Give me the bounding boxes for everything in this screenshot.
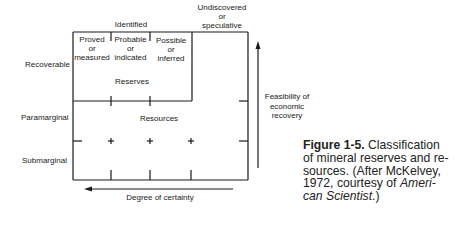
subcolumn-probable-line-3: indicated [111, 53, 150, 62]
undiscovered-line-2: or [192, 12, 252, 21]
undiscovered-line-3: speculative [192, 21, 252, 30]
subcolumn-possible-line-3: inferred [151, 54, 191, 63]
caption-line-5: can Scientist.) [303, 190, 462, 203]
vertical-axis-line-2: economic [257, 102, 317, 111]
vertical-axis-line-1: Feasibility of [257, 92, 317, 101]
caption-line-1: Figure 1-5. Classification [303, 139, 462, 152]
subcolumn-probable-line-1: Probable [111, 35, 150, 44]
figure-number: Figure 1-5. [303, 138, 365, 152]
caption-line-1-text: Classification [368, 138, 440, 152]
row-label-paramarginal: Paramarginal [21, 113, 69, 122]
subcolumn-proved-line-1: Proved [73, 35, 111, 44]
caption-line-5-italic: can Scientist [303, 189, 372, 203]
caption-line-2: of mineral reserves and re- [303, 152, 462, 165]
row-label-recoverable: Recoverable [25, 60, 70, 69]
subcolumn-proved-line-2: or [73, 44, 111, 53]
caption-line-5-text: .) [372, 189, 379, 203]
arrow-left-head [84, 187, 92, 192]
resources-label: Resources [129, 114, 189, 123]
arrow-up-head [256, 41, 261, 49]
vertical-axis-line-3: recovery [257, 111, 317, 120]
row-label-submarginal: Submarginal [22, 156, 67, 165]
subcolumn-proved-line-3: measured [73, 53, 111, 62]
horizontal-axis-label: Degree of certainty [110, 193, 210, 202]
subcolumn-possible-line-2: or [151, 45, 191, 54]
reserves-label: Reserves [102, 77, 162, 86]
identified-header: Identified [101, 20, 161, 29]
subcolumn-probable-line-2: or [111, 44, 150, 53]
figure-caption: Figure 1-5. Classification of mineral re… [303, 139, 462, 203]
undiscovered-line-1: Undiscovered [192, 3, 252, 12]
caption-line-4-italic: Ameri- [400, 176, 436, 190]
subcolumn-possible-line-1: Possible [151, 36, 191, 45]
